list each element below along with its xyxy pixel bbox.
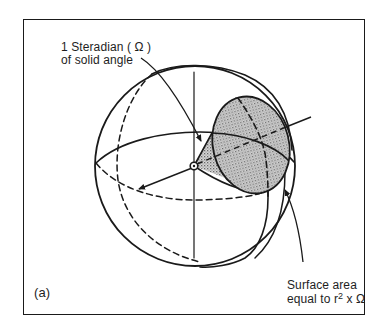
cone-axis bbox=[286, 117, 311, 127]
steradian-label-line2: of solid angle bbox=[61, 53, 133, 67]
meridian-back-dashed bbox=[117, 74, 200, 262]
meridian-front bbox=[200, 198, 268, 267]
panel-label: (a) bbox=[34, 286, 50, 300]
surface-area-suffix: x Ω bbox=[343, 292, 365, 306]
leader-surface-area bbox=[285, 190, 303, 262]
steradian-label-line1: 1 Steradian ( Ω ) bbox=[61, 40, 151, 54]
leader-steradian bbox=[141, 58, 201, 141]
surface-area-label-line1: Surface area bbox=[287, 278, 357, 292]
radius-arrow bbox=[139, 168, 192, 189]
solid-angle-figure: 1 Steradian ( Ω ) of solid angle Surface… bbox=[0, 0, 386, 334]
surface-area-prefix: equal to r bbox=[287, 292, 338, 306]
surface-area-label-line2: equal to r2 x Ω bbox=[287, 292, 365, 306]
